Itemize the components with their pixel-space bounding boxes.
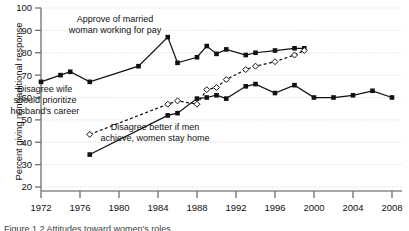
y-tick-label: 20 [21, 181, 32, 192]
data-point-marker [351, 93, 356, 98]
data-point-marker [204, 87, 210, 93]
data-point-marker [87, 152, 92, 157]
data-point-marker [195, 55, 200, 60]
data-point-marker [243, 84, 248, 89]
data-point-marker [273, 91, 278, 96]
y-tick-label: 70 [21, 70, 32, 81]
data-point-marker [68, 69, 73, 74]
data-point-marker [370, 88, 375, 93]
axis-lines [41, 8, 402, 191]
data-point-marker [175, 61, 180, 66]
data-point-marker [253, 63, 259, 69]
data-point-marker [273, 48, 278, 53]
y-tick-label: 30 [21, 159, 32, 170]
data-point-marker [292, 46, 297, 51]
data-point-marker [390, 95, 395, 100]
x-tick-label: 1988 [186, 202, 207, 213]
x-tick-label: 1996 [264, 202, 285, 213]
data-point-marker [87, 131, 93, 137]
data-point-marker [272, 59, 278, 65]
data-point-marker [331, 95, 336, 100]
x-tick-label: 2004 [342, 202, 363, 213]
x-axis-ticks: 1972197619801984198819921996200020042008 [30, 191, 402, 213]
data-point-marker [204, 44, 209, 49]
annot-disagree-wife: Disagree wifeshould prioritizehusband's … [11, 84, 80, 116]
data-point-marker [253, 82, 258, 87]
data-point-marker [214, 93, 219, 98]
x-tick-label: 2000 [303, 202, 324, 213]
data-point-marker [58, 73, 63, 78]
x-tick-label: 1992 [225, 202, 246, 213]
data-point-marker [224, 47, 229, 52]
annot-disagree-better: Disagree better if menachieve, women sta… [100, 122, 209, 143]
data-point-marker [243, 67, 249, 73]
data-series-layer [39, 35, 395, 157]
series-line-2 [90, 84, 392, 154]
y-tick-label: 80 [21, 47, 32, 58]
y-tick-label: 40 [21, 137, 32, 148]
x-tick-label: 1984 [147, 202, 168, 213]
line-chart: 2030405060708090100 19721976198019841988… [0, 0, 409, 231]
figure-caption: Figure 1.2 Attitudes toward women's role… [4, 224, 171, 231]
annot-approve: Approve of marriedwoman working for pay [68, 14, 162, 35]
data-point-marker [214, 84, 220, 90]
data-point-marker [195, 96, 200, 101]
data-point-marker [165, 113, 170, 118]
y-tick-label: 90 [21, 25, 32, 36]
x-tick-label: 1980 [108, 202, 129, 213]
x-tick-label: 1972 [30, 202, 51, 213]
data-point-marker [292, 83, 297, 88]
data-point-marker [136, 64, 141, 69]
data-point-marker [243, 53, 248, 58]
data-point-marker [253, 50, 258, 55]
data-point-marker [204, 95, 209, 100]
data-point-marker [87, 80, 92, 85]
data-point-marker [223, 77, 229, 83]
data-point-marker [194, 101, 200, 107]
x-tick-label: 1976 [69, 202, 90, 213]
data-point-marker [175, 98, 181, 104]
data-point-marker [312, 95, 317, 100]
data-point-marker [165, 101, 171, 107]
chart-figure: Percent giving nontraditional response 2… [0, 0, 409, 231]
data-point-marker [165, 35, 170, 40]
data-point-marker [214, 52, 219, 57]
x-tick-label: 2008 [381, 202, 402, 213]
y-tick-label: 100 [16, 2, 32, 13]
data-point-marker [175, 111, 180, 116]
data-point-marker [224, 96, 229, 101]
